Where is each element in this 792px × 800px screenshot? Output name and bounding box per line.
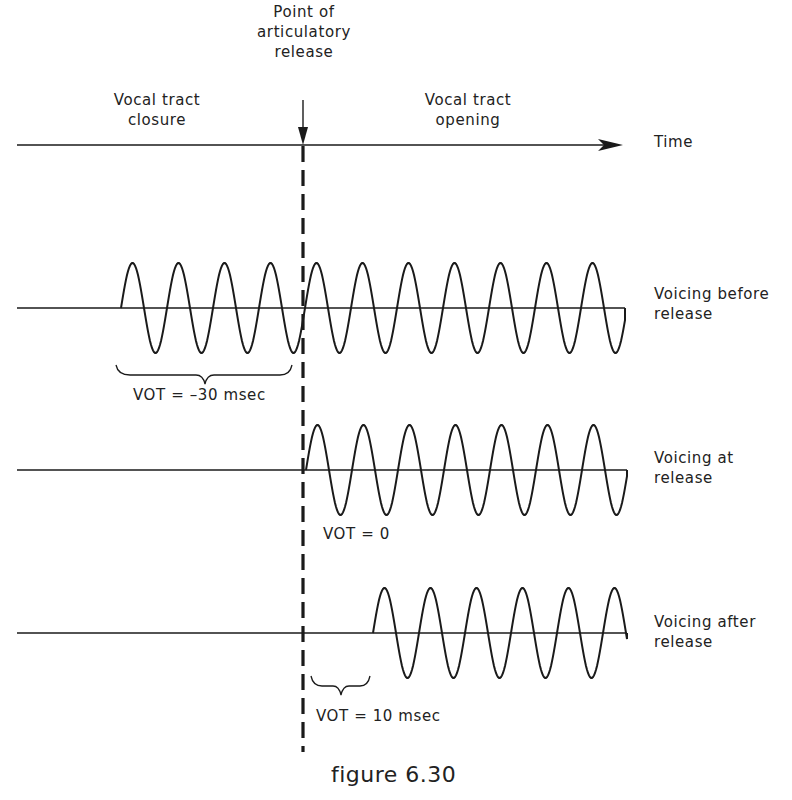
row-label-after-line-1: Voicing after (654, 612, 756, 632)
release-point-line-3: release (243, 42, 365, 62)
vot-label-after: VOT = 10 msec (316, 706, 441, 726)
closure-line-1: Vocal tract (92, 90, 222, 110)
vot-brace-after (311, 676, 370, 695)
row-label-after-release: Voicing after release (654, 612, 756, 652)
vot-label-at: VOT = 0 (323, 524, 390, 544)
vot-brace-before (116, 365, 292, 384)
row-label-before-release: Voicing before release (654, 284, 769, 324)
row-label-at-line-2: release (654, 468, 734, 488)
closure-line-2: closure (92, 110, 222, 130)
time-axis-label: Time (654, 132, 693, 152)
row-label-at-line-1: Voicing at (654, 448, 734, 468)
figure-caption: figure 6.30 (331, 762, 456, 787)
row-label-before-line-1: Voicing before (654, 284, 769, 304)
vot-label-before: VOT = –30 msec (133, 385, 266, 405)
closure-label: Vocal tract closure (92, 90, 222, 130)
opening-label: Vocal tract opening (403, 90, 533, 130)
row-label-before-line-2: release (654, 304, 769, 324)
release-arrow-head-icon (298, 127, 308, 145)
release-point-line-2: articulatory (243, 22, 365, 42)
opening-line-2: opening (403, 110, 533, 130)
row-label-at-release: Voicing at release (654, 448, 734, 488)
row-label-after-line-2: release (654, 632, 756, 652)
release-point-label: Point of articulatory release (243, 2, 365, 62)
release-point-line-1: Point of (243, 2, 365, 22)
opening-line-1: Vocal tract (403, 90, 533, 110)
